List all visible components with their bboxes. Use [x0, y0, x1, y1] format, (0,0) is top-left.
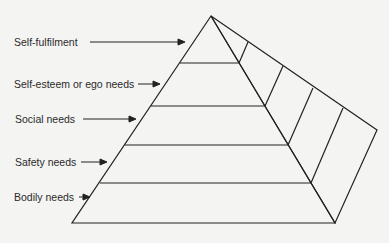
- label-self-fulfilment: Self-fulfilment: [14, 36, 78, 48]
- label-social-needs: Social needs: [15, 113, 75, 125]
- label-self-esteem: Self-esteem or ego needs: [14, 78, 134, 90]
- arrow-social: [83, 116, 136, 122]
- pyramid-side-face: [211, 16, 377, 223]
- arrow-self-esteem: [138, 81, 160, 87]
- side-divider-1: [239, 42, 248, 63]
- side-divider-2: [265, 66, 283, 106]
- label-bodily-needs: Bodily needs: [14, 191, 74, 203]
- label-safety-needs: Safety needs: [15, 156, 76, 168]
- side-divider-3: [288, 88, 313, 145]
- arrow-safety: [81, 159, 107, 165]
- side-divider-4: [311, 108, 343, 183]
- arrow-self-fulfilment: [90, 39, 185, 45]
